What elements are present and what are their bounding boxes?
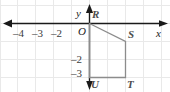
x-tick-label-neg3: –3 [32, 28, 43, 39]
vertex-label-r: R [92, 9, 99, 20]
x-axis-label: x [156, 28, 161, 39]
vertex-label-s: S [128, 29, 134, 40]
y-tick-label-neg2: –2 [71, 54, 82, 65]
y-axis-label: y [76, 8, 81, 19]
coordinate-plane-svg [0, 0, 170, 92]
y-tick-label-neg3: –3 [71, 68, 82, 79]
x-axis-right-arrow [159, 20, 168, 27]
vertex-label-u: U [91, 79, 99, 90]
origin-label: O [78, 26, 86, 37]
x-tick-label-neg4: –4 [13, 28, 24, 39]
vertex-label-t: T [127, 79, 134, 90]
coordinate-plane-figure: y x O –4 –3 –2 –2 –3 R S T U [0, 0, 170, 92]
grid-lines [0, 0, 170, 92]
x-axis-left-arrow [3, 20, 12, 28]
x-tick-label-neg2: –2 [51, 28, 62, 39]
